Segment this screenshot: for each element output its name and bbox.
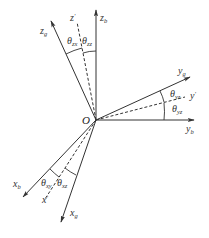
x-g-axis	[61, 120, 96, 222]
z-g-label: zg	[39, 25, 48, 37]
angle-arc-z-left	[66, 48, 82, 54]
z-g-axis	[51, 21, 96, 120]
x-b-label: xb	[12, 178, 21, 190]
y-g-label: yg	[177, 65, 186, 77]
angle-arc-y-upper	[160, 91, 164, 102]
theta-yz-lower-label: θyz	[172, 103, 183, 115]
y-prime-label: y′	[189, 90, 196, 101]
theta-yz-upper-label: θyz	[170, 88, 181, 100]
z-b-label: zb	[99, 12, 108, 24]
y-b-label: yb	[185, 123, 194, 135]
x-g-label: xg	[69, 207, 78, 219]
theta-xy-label: θxy	[41, 177, 52, 189]
x-prime-axis	[45, 120, 96, 199]
theta-zx-label: θzx	[67, 35, 77, 47]
angle-arc-x-left	[50, 169, 59, 177]
theta-zz-label: θzz	[82, 35, 92, 47]
theta-xz-label: θxz	[57, 177, 68, 189]
angle-arc-y-lower	[164, 103, 165, 120]
angle-arc-z-right	[83, 51, 96, 53]
angle-arc-x-right	[65, 168, 76, 175]
z-prime-label: z′	[69, 12, 76, 23]
coordinate-rotation-diagram: O zb z′ zg θzx θzz yg y′ yb θyz θyz xb x…	[0, 0, 209, 238]
x-prime-label: x′	[41, 194, 48, 205]
origin-label: O	[82, 114, 90, 126]
